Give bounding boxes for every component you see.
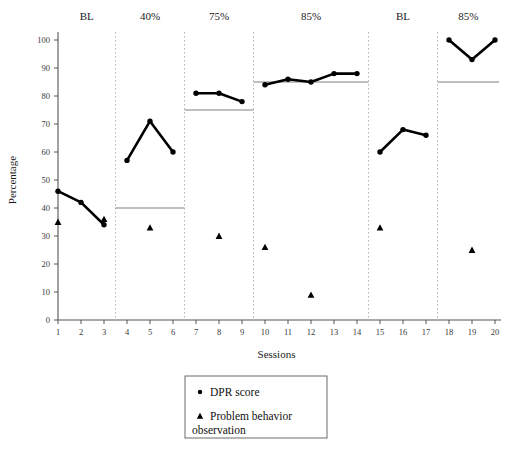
dpr-score-point xyxy=(377,149,382,154)
legend-marker-dpr-score xyxy=(198,390,202,394)
dpr-score-line xyxy=(380,130,426,152)
phase-label: 75% xyxy=(209,10,229,22)
legend-label-problem-behavior: Problem behavior xyxy=(210,410,292,422)
x-axis-tick-label: 8 xyxy=(217,327,221,337)
x-axis-tick-label: 16 xyxy=(399,327,408,337)
y-axis-tick-label: 20 xyxy=(42,259,51,269)
problem-behavior-point xyxy=(101,216,108,222)
dpr-score-point xyxy=(446,37,451,42)
problem-behavior-point xyxy=(216,233,223,239)
dpr-score-point xyxy=(262,82,267,87)
x-axis-tick-label: 13 xyxy=(330,327,339,337)
x-axis-tick-label: 7 xyxy=(194,327,198,337)
x-axis-tick-label: 20 xyxy=(491,327,500,337)
y-axis-tick-label: 70 xyxy=(42,119,51,129)
y-axis-tick-label: 80 xyxy=(42,91,51,101)
x-axis-tick-label: 4 xyxy=(125,327,130,337)
dpr-score-point xyxy=(170,149,175,154)
y-axis-tick-label: 10 xyxy=(42,287,51,297)
x-axis-title: Sessions xyxy=(258,348,296,360)
problem-behavior-point xyxy=(147,224,154,230)
dpr-score-point xyxy=(492,37,497,42)
y-axis-tick-label: 30 xyxy=(42,231,51,241)
phase-label: BL xyxy=(80,10,94,22)
x-axis-tick-label: 17 xyxy=(422,327,431,337)
dpr-score-point xyxy=(78,200,83,205)
phase-label: 85% xyxy=(458,10,478,22)
dpr-score-point xyxy=(55,189,60,194)
problem-behavior-point xyxy=(55,219,62,225)
dpr-score-point xyxy=(308,79,313,84)
x-axis-tick-label: 19 xyxy=(468,327,477,337)
dpr-score-point xyxy=(285,77,290,82)
chart-canvas: 0102030405060708090100123456789101112131… xyxy=(0,0,515,456)
y-axis-tick-label: 60 xyxy=(42,147,51,157)
dpr-score-point xyxy=(101,222,106,227)
dpr-score-point xyxy=(239,99,244,104)
dpr-score-point xyxy=(331,71,336,76)
legend-label-problem-behavior-cont: observation xyxy=(192,424,246,436)
phase-label: 40% xyxy=(140,10,160,22)
problem-behavior-point xyxy=(308,291,315,297)
y-axis-tick-label: 100 xyxy=(37,35,50,45)
dpr-score-line xyxy=(449,40,495,60)
problem-behavior-point xyxy=(469,247,476,253)
x-axis-tick-label: 2 xyxy=(79,327,83,337)
dpr-score-point xyxy=(354,71,359,76)
phase-label: BL xyxy=(396,10,410,22)
dpr-score-point xyxy=(469,57,474,62)
dpr-score-point xyxy=(147,119,152,124)
x-axis-tick-label: 11 xyxy=(284,327,292,337)
single-case-design-chart: 0102030405060708090100123456789101112131… xyxy=(0,0,515,456)
x-axis-tick-label: 12 xyxy=(307,327,316,337)
dpr-score-line xyxy=(58,191,104,225)
dpr-score-line xyxy=(127,121,173,160)
y-axis-tick-label: 90 xyxy=(42,63,51,73)
problem-behavior-point xyxy=(377,224,384,230)
dpr-score-point xyxy=(216,91,221,96)
dpr-score-point xyxy=(423,133,428,138)
dpr-score-point xyxy=(124,158,129,163)
phase-label: 85% xyxy=(301,10,321,22)
x-axis-tick-label: 10 xyxy=(261,327,270,337)
problem-behavior-point xyxy=(262,244,269,250)
y-axis-title: Percentage xyxy=(6,156,18,204)
dpr-score-point xyxy=(193,91,198,96)
legend-label-dpr-score: DPR score xyxy=(210,386,260,398)
x-axis-tick-label: 14 xyxy=(353,327,362,337)
dpr-score-point xyxy=(400,127,405,132)
x-axis-tick-label: 15 xyxy=(376,327,385,337)
x-axis-tick-label: 6 xyxy=(171,327,175,337)
y-axis-tick-label: 50 xyxy=(42,175,51,185)
x-axis-tick-label: 18 xyxy=(445,327,454,337)
x-axis-tick-label: 9 xyxy=(240,327,244,337)
y-axis-tick-label: 40 xyxy=(42,203,51,213)
y-axis-tick-label: 0 xyxy=(46,315,50,325)
x-axis-tick-label: 1 xyxy=(56,327,60,337)
x-axis-tick-label: 5 xyxy=(148,327,152,337)
x-axis-tick-label: 3 xyxy=(102,327,106,337)
